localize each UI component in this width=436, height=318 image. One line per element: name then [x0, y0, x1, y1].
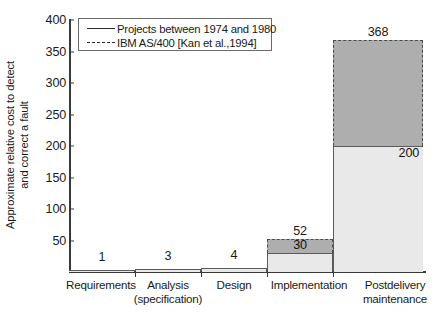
y-axis-title-line-1: Approximate relative cost to detect — [3, 61, 17, 229]
x-category-implementation-line-1: Implementation — [260, 278, 358, 292]
bar-label-implementation-solid: 30 — [267, 239, 333, 252]
legend-entry-projects[interactable]: Projects between 1974 and 1980 — [85, 22, 271, 35]
y-axis-title: Approximate relative cost to detect and … — [0, 0, 34, 290]
legend-entry-ibm[interactable]: IBM AS/400 [Kan et al.,1994] — [85, 36, 271, 49]
x-category-design-line-1: Design — [205, 278, 263, 292]
x-category-postdelivery-line-2: maintenance — [356, 292, 434, 306]
x-category-implementation: Implementation — [260, 278, 358, 292]
bar-label-analysis: 3 — [135, 250, 201, 263]
bar-label-postdelivery-solid: 200 — [333, 147, 419, 160]
x-category-postdelivery-line-1: Postdelivery — [356, 278, 434, 292]
legend-label-projects: Projects between 1974 and 1980 — [117, 23, 276, 35]
x-category-analysis-line-2: (specification) — [124, 292, 212, 306]
x-tick-mark-3 — [267, 271, 268, 277]
x-tick-mark-1 — [135, 271, 136, 277]
y-tick-label-200: 200 — [38, 140, 66, 153]
x-category-analysis: Analysis (specification) — [124, 278, 212, 305]
x-tick-mark-4 — [333, 271, 334, 277]
y-tick-label-150: 150 — [38, 171, 66, 184]
x-category-postdelivery: Postdelivery maintenance — [356, 278, 434, 305]
plot-area: 1 3 4 30 52 200 368 — [69, 20, 425, 272]
x-tick-mark-2 — [201, 271, 202, 277]
bar-label-design: 4 — [201, 249, 267, 262]
y-axis-title-line-2: and correct a fault — [17, 61, 31, 229]
bar-label-postdelivery-dashed: 368 — [333, 26, 423, 39]
bar-requirements-base[interactable] — [69, 270, 135, 272]
y-tick-label-250: 250 — [38, 108, 66, 121]
dashed-line-key-icon — [85, 38, 117, 48]
bar-analysis-base[interactable] — [135, 269, 201, 272]
bar-label-implementation-dashed: 52 — [267, 225, 333, 238]
bar-postdelivery-overlay[interactable] — [333, 40, 423, 146]
legend-label-ibm: IBM AS/400 [Kan et al.,1994] — [117, 37, 256, 49]
bar-implementation-base[interactable] — [267, 253, 333, 272]
x-category-analysis-line-1: Analysis — [124, 278, 212, 292]
y-tick-label-400: 400 — [38, 14, 66, 27]
bar-postdelivery-base[interactable] — [333, 146, 423, 272]
bar-design-base[interactable] — [201, 268, 267, 272]
y-tick-label-350: 350 — [38, 45, 66, 58]
y-axis-tick-labels: 400 350 300 250 200 150 100 50 — [34, 0, 66, 318]
chart-legend: Projects between 1974 and 1980 IBM AS/40… — [78, 18, 272, 51]
bar-label-requirements: 1 — [69, 251, 135, 264]
y-tick-label-100: 100 — [38, 203, 66, 216]
y-tick-label-300: 300 — [38, 77, 66, 90]
x-category-design: Design — [205, 278, 263, 292]
solid-line-key-icon — [85, 24, 117, 34]
y-tick-label-50: 50 — [38, 234, 66, 247]
